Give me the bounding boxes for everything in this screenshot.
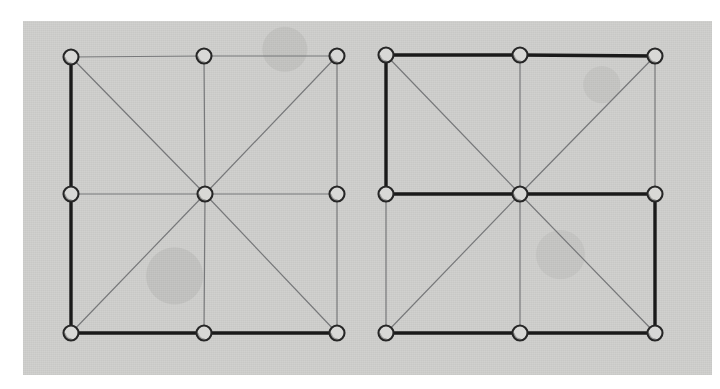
graph-node [379,48,394,63]
graph-edge-thin [520,194,655,333]
graph-node [330,187,345,202]
graph-node [198,187,213,202]
figure-page [0,0,720,389]
graph-node [330,49,345,64]
graph-edge-thin [205,56,337,194]
graph-node [379,326,394,341]
graph-edge-bold [520,55,655,56]
graph-edge-thin [204,56,205,194]
graph-node [513,48,528,63]
graph-node [648,49,663,64]
graph-node [330,326,345,341]
graph-edge-thin [71,57,205,194]
graph-edge-thin [520,56,655,194]
graph-node [64,187,79,202]
lattice-figure [0,0,720,389]
graph-node [379,187,394,202]
graph-node [648,326,663,341]
graph-edge-thin [205,194,337,333]
graph-node [648,187,663,202]
graph-edge-thin [204,194,205,333]
graph-node [197,326,212,341]
graph-node [64,50,79,65]
graph-edge-thin [71,194,205,333]
graph-edge-thin [386,194,520,333]
graph-edge-thin [386,55,520,194]
graph-edge-thin [71,56,204,57]
graph-node [64,326,79,341]
graph-node [197,49,212,64]
graph-node [513,187,528,202]
graph-node [513,326,528,341]
